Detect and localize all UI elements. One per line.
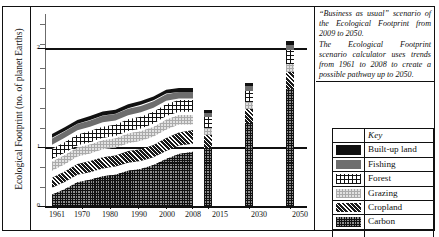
bar-2030-builtup-land [245,83,253,86]
legend-title-swatch-cell [333,129,365,142]
bar-2030-fishing [245,86,253,91]
y-axis-label-cell: Ecological Footprint (no. of planet Eart… [3,7,31,230]
legend-spacer-text-cell [365,230,433,237]
caption-paragraph-2: The Ecological Footprint scenario calcul… [319,40,431,81]
bar-2015-carbon [204,148,212,206]
chart-figure: Ecological Footprint (no. of planet Eart… [0,0,439,237]
caption-paragraph-1: “Business as usual” scenario of the Ecol… [319,9,431,40]
x-tick-label-2015: 2015 [205,210,235,219]
legend-label-forest: Forest [365,172,433,185]
bar-2030-carbon [245,123,253,206]
bar-2050-cropland [286,72,294,89]
cropland-swatch-icon [336,203,361,212]
gridline-2-earths [45,48,307,50]
x-tick-label-1980: 1980 [95,210,125,219]
y-tick-label-1: 1 [28,142,40,149]
x-tick-2000 [166,206,167,209]
legend-bottom-spacer [333,230,433,237]
legend-label-builtup-land: Built-up land [365,143,433,156]
legend-item-fishing: Fishing [333,158,433,172]
y-axis-line [45,14,46,207]
legend-item-grazing: Grazing [333,187,433,201]
y-axis-minor-tick [40,108,45,109]
legend-swatch-cell [333,201,365,214]
grazing-swatch-icon [336,189,361,198]
bar-2050-builtup-land [286,41,294,45]
legend-item-builtup-land: Built-up land [333,143,433,157]
legend-swatch-cell [333,215,365,228]
y-axis-minor-tick [40,88,45,89]
x-tick-label-2050: 2050 [285,210,315,219]
bar-2050-forest [286,50,294,64]
legend-item-cropland: Cropland [333,201,433,215]
x-tick-2030 [249,206,250,209]
x-tick-1970 [82,206,83,209]
bar-2015-cropland [204,135,212,148]
x-tick-label-2008: 2008 [178,210,208,219]
legend-spacer-swatch-cell [333,230,365,237]
bar-2015-fishing [204,113,212,117]
y-axis-minor-tick [40,167,45,168]
y-axis-label: Ecological Footprint (no. of planet Eart… [14,9,24,209]
y-axis-minor-tick [40,44,45,45]
fishing-swatch-icon [336,160,361,169]
bar-2050-grazing [286,64,294,72]
bar-2050-fishing [286,45,294,50]
y-tick-label-0: 0 [28,201,40,208]
legend-item-forest: Forest [333,172,433,186]
x-tick-1990 [138,206,139,209]
x-tick-label-1970: 1970 [67,210,97,219]
bar-2015-builtup-land [204,110,212,113]
x-tick-1961 [57,206,58,209]
x-tick-2015 [208,206,209,209]
y-axis-minor-tick [40,187,45,188]
caption-note: “Business as usual” scenario of the Ecol… [316,7,434,82]
bar-2030-grazing [245,102,253,109]
legend-title: Key [365,129,433,142]
x-tick-label-2030: 2030 [244,210,274,219]
carbon-swatch-icon [336,217,361,226]
x-tick-label-1990: 1990 [124,210,154,219]
legend-label-grazing: Grazing [365,187,433,200]
legend-swatch-cell [333,143,365,156]
bar-2030-forest [245,91,253,102]
y-axis-minor-tick [40,24,45,25]
y-axis-minor-tick [40,128,45,129]
y-tick-label-2: 2 [28,43,40,50]
x-tick-2050 [290,206,291,209]
bar-2015-grazing [204,128,212,135]
x-tick-2008 [192,206,193,209]
right-column: “Business as usual” scenario of the Ecol… [316,7,434,230]
bar-2015-forest [204,117,212,128]
forest-swatch-icon [336,174,361,183]
legend-item-carbon: Carbon [333,215,433,229]
x-tick-1980 [110,206,111,209]
legend-label-cropland: Cropland [365,201,433,214]
builtup-land-swatch-icon [336,145,361,154]
legend-swatch-cell [333,187,365,200]
legend-title-row: Key [333,129,433,143]
legend-label-fishing: Fishing [365,158,433,171]
legend: Key Built-up land Fishing Forest [332,128,434,237]
legend-swatch-cell [333,158,365,171]
legend-label-carbon: Carbon [365,215,433,228]
bar-2050-carbon [286,89,294,206]
bar-2030-cropland [245,109,253,123]
y-axis-minor-tick [40,68,45,69]
x-axis-line [45,206,307,208]
legend-swatch-cell [333,172,365,185]
